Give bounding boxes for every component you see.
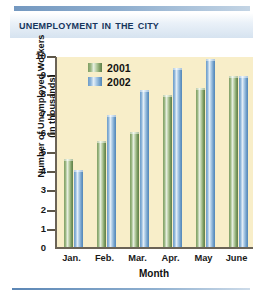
- top-decorative-rule: [14, 6, 250, 11]
- x-axis-label-Apr: Apr.: [154, 253, 188, 263]
- legend-swatch-2001-icon: [88, 63, 102, 72]
- bar-2002-June: [239, 76, 248, 247]
- y-axis-label-2: 2: [28, 205, 46, 215]
- bar-2001-Apr: [163, 95, 172, 247]
- bar-2002-May: [206, 59, 215, 247]
- bar-2002-Apr: [173, 68, 182, 247]
- x-axis-title: Month: [55, 268, 253, 279]
- bar-2002-Jan: [74, 170, 83, 247]
- bar-2001-Jan: [64, 159, 73, 247]
- x-axis-label-Mar: Mar.: [121, 253, 155, 263]
- legend: 2001 2002: [88, 61, 150, 89]
- bar-2002-Feb: [107, 115, 116, 247]
- y-axis-title-line1: Number of Unemployed Workers: [36, 35, 46, 178]
- chart-page: Unemployment in the City 109876543210 Nu…: [0, 0, 259, 300]
- x-axis-label-Jan: Jan.: [55, 253, 89, 263]
- x-axis-label-Feb: Feb.: [88, 253, 122, 263]
- y-axis-label-0: 0: [28, 243, 46, 253]
- y-axis-label-1: 1: [28, 224, 46, 234]
- legend-item-2002: 2002: [88, 75, 150, 88]
- legend-item-2001: 2001: [88, 61, 150, 74]
- bar-2001-Mar: [130, 132, 139, 247]
- bar-2002-Mar: [140, 90, 149, 247]
- legend-label-2002: 2002: [107, 76, 131, 88]
- bar-2001-May: [196, 88, 205, 247]
- legend-label-2001: 2001: [107, 62, 131, 74]
- bars-container: [57, 57, 253, 247]
- bar-2001-Feb: [97, 141, 106, 247]
- x-axis-label-May: May: [187, 253, 221, 263]
- bottom-decorative-rule: [12, 288, 250, 290]
- plot-area: [55, 57, 253, 249]
- bar-2001-June: [229, 76, 238, 247]
- legend-swatch-2002-icon: [88, 77, 102, 86]
- x-axis-label-June: June: [220, 253, 254, 263]
